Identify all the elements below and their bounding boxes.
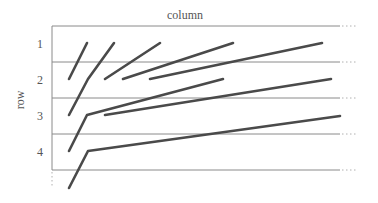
segment-line (69, 79, 223, 151)
line-diagram: column row 1 2 3 4 (0, 0, 378, 203)
row-axis-label: row (13, 90, 27, 109)
segment-line (69, 116, 340, 188)
segment-line (69, 43, 87, 79)
row-label-4: 4 (37, 145, 43, 159)
segment-line (105, 79, 331, 115)
row-label-2: 2 (37, 73, 43, 87)
row-label-3: 3 (37, 109, 43, 123)
grid-lines (52, 26, 358, 188)
segments (69, 43, 340, 188)
row-label-1: 1 (37, 37, 43, 51)
segment-line (105, 43, 160, 79)
column-title: column (167, 8, 203, 22)
